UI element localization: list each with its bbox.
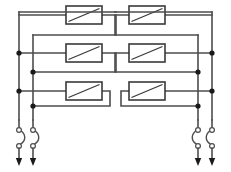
switch-r2-blade-icon[interactable] (206, 131, 210, 144)
switch-l2-blade-icon[interactable] (34, 131, 38, 144)
switch-l1-blade-icon[interactable] (20, 131, 24, 144)
switch-r1-upper-contact-icon[interactable] (196, 128, 201, 133)
junction-rd (195, 103, 200, 108)
switch-l2-upper-contact-icon[interactable] (31, 128, 36, 133)
junction-lc (30, 69, 35, 74)
schematic-canvas (0, 0, 231, 172)
junction-la (16, 50, 21, 55)
junction-rb (209, 88, 214, 93)
junction-lb (16, 88, 21, 93)
electrical-schematic (0, 0, 231, 172)
switch-l1-upper-contact-icon[interactable] (17, 128, 22, 133)
junction-ra (209, 50, 214, 55)
junction-ld (30, 103, 35, 108)
switch-r1-down-arrow-icon (195, 158, 201, 166)
switch-r2-down-arrow-icon (209, 158, 215, 166)
switch-l2-down-arrow-icon (30, 158, 36, 166)
switch-l1-down-arrow-icon (16, 158, 22, 166)
switch-r2-upper-contact-icon[interactable] (210, 128, 215, 133)
switch-r1-blade-icon[interactable] (192, 131, 196, 144)
junction-rc (195, 69, 200, 74)
